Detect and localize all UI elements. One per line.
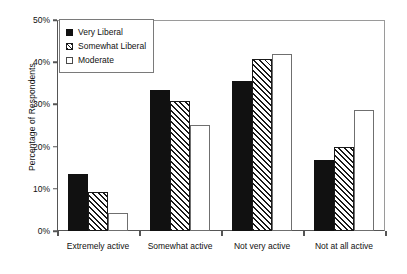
bar <box>252 59 272 231</box>
bar <box>272 54 292 231</box>
x-axis-tick-mark <box>139 231 141 236</box>
legend-label-moderate: Moderate <box>78 56 114 65</box>
chart-legend: Very Liberal Somewhat Liberal Moderate <box>59 19 154 73</box>
y-axis-tick-mark <box>53 104 57 106</box>
x-axis-tick-mark <box>385 231 387 236</box>
x-axis-tick-mark <box>221 231 223 236</box>
y-axis-tick-label: 30% <box>33 99 50 109</box>
y-axis-tick-mark <box>53 146 57 148</box>
bar <box>190 125 210 231</box>
y-axis-tick-label: 0% <box>38 226 50 236</box>
x-axis-tick-label: Not very active <box>234 241 290 251</box>
legend-label-very-liberal: Very Liberal <box>78 28 123 37</box>
legend-label-somewhat-liberal: Somewhat Liberal <box>78 42 146 51</box>
y-axis-tick-mark <box>53 61 57 63</box>
legend-swatch-icon-moderate <box>66 57 73 64</box>
legend-item-moderate: Moderate <box>66 53 146 67</box>
x-axis-tick-label: Somewhat active <box>148 241 213 251</box>
bar <box>68 174 88 231</box>
legend-swatch-icon-somewhat-liberal <box>66 43 73 50</box>
y-axis-tick-label: 50% <box>33 15 50 25</box>
bar <box>334 147 354 231</box>
bar <box>170 101 190 231</box>
y-axis-tick-label: 20% <box>33 142 50 152</box>
legend-item-somewhat-liberal: Somewhat Liberal <box>66 39 146 53</box>
bar <box>232 81 252 231</box>
y-axis-tick-mark <box>53 19 57 21</box>
bar <box>150 90 170 231</box>
x-axis-tick-label: Not at all active <box>315 241 373 251</box>
bar <box>108 213 128 231</box>
bar <box>88 192 108 231</box>
bar <box>354 110 374 231</box>
y-axis-tick-mark <box>53 188 57 190</box>
y-axis-tick-label: 40% <box>33 57 50 67</box>
legend-item-very-liberal: Very Liberal <box>66 25 146 39</box>
x-axis-tick-mark <box>303 231 305 236</box>
bar <box>314 160 334 231</box>
bar-chart: Percentage of Respondents 0%10%20%30%40%… <box>0 0 407 274</box>
x-axis-tick-mark <box>57 231 59 236</box>
x-axis-tick-label: Extremely active <box>67 241 129 251</box>
legend-swatch-icon-very-liberal <box>66 29 73 36</box>
y-axis-tick-label: 10% <box>33 184 50 194</box>
